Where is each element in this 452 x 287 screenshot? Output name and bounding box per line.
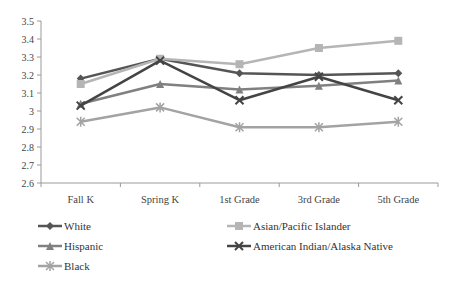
legend-item-black: Black [38, 260, 90, 272]
legend-item-american-indian-alaska-native: American Indian/Alaska Native [227, 240, 393, 252]
legend-item-hispanic: Hispanic [38, 240, 103, 252]
legend-label: Asian/Pacific Islander [253, 220, 350, 232]
legend-item-white: White [38, 220, 91, 232]
square-marker-icon [227, 221, 251, 231]
legend: White Asian/Pacific Islander Hispanic Am… [0, 0, 452, 287]
diamond-marker-icon [38, 221, 62, 231]
star-marker-icon [38, 261, 62, 271]
legend-item-asian-pacific-islander: Asian/Pacific Islander [227, 220, 350, 232]
x-marker-icon [227, 241, 251, 251]
legend-label: White [64, 220, 91, 232]
legend-label: American Indian/Alaska Native [253, 240, 393, 252]
legend-label: Black [64, 260, 90, 272]
legend-label: Hispanic [64, 240, 103, 252]
triangle-marker-icon [38, 241, 62, 251]
